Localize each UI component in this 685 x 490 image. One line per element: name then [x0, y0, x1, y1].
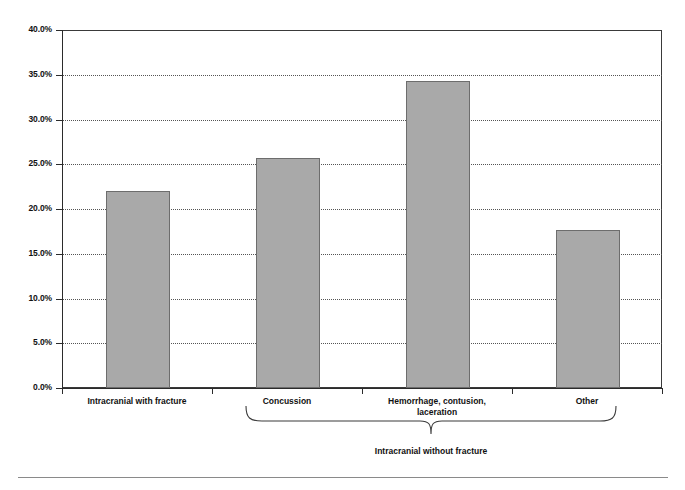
gridline-25 — [62, 164, 662, 165]
y-tick-label-25: 25.0% — [4, 158, 52, 168]
gridline-30 — [62, 120, 662, 121]
x-tick-4 — [662, 388, 663, 394]
y-tick-30 — [56, 120, 62, 121]
y-tick-label-20: 20.0% — [4, 203, 52, 213]
y-tick-5 — [56, 343, 62, 344]
bar-concussion — [256, 158, 320, 388]
y-tick-label-35: 35.0% — [4, 69, 52, 79]
chart-figure: 40.0% 35.0% 30.0% 25.0% 20.0% 15.0% 10.0… — [0, 0, 685, 490]
x-tick-0 — [62, 388, 63, 394]
y-tick-40 — [56, 30, 62, 31]
x-tick-2 — [362, 388, 363, 394]
y-tick-10 — [56, 299, 62, 300]
x-tick-1 — [212, 388, 213, 394]
bar-other — [556, 230, 620, 388]
bar-intracranial-with-fracture — [106, 191, 170, 388]
y-axis-line — [62, 30, 63, 388]
x-category-label-0: Intracranial with fracture — [62, 396, 212, 407]
y-tick-label-5: 5.0% — [4, 337, 52, 347]
gridline-35 — [62, 75, 662, 76]
group-brace-icon — [240, 404, 622, 442]
y-tick-20 — [56, 209, 62, 210]
y-tick-label-0: 0.0% — [4, 382, 52, 392]
y-tick-15 — [56, 254, 62, 255]
y-tick-label-15: 15.0% — [4, 248, 52, 258]
y-tick-label-40: 40.0% — [4, 24, 52, 34]
group-annotation-label: Intracranial without fracture — [240, 446, 622, 456]
bar-hemorrhage-contusion-laceration — [406, 81, 470, 388]
x-tick-3 — [512, 388, 513, 394]
y-tick-label-30: 30.0% — [4, 114, 52, 124]
y-tick-label-10: 10.0% — [4, 293, 52, 303]
x-category-label-0-line1: Intracranial with fracture — [62, 396, 212, 407]
footer-divider — [18, 477, 668, 478]
y-tick-25 — [56, 164, 62, 165]
y-tick-35 — [56, 75, 62, 76]
